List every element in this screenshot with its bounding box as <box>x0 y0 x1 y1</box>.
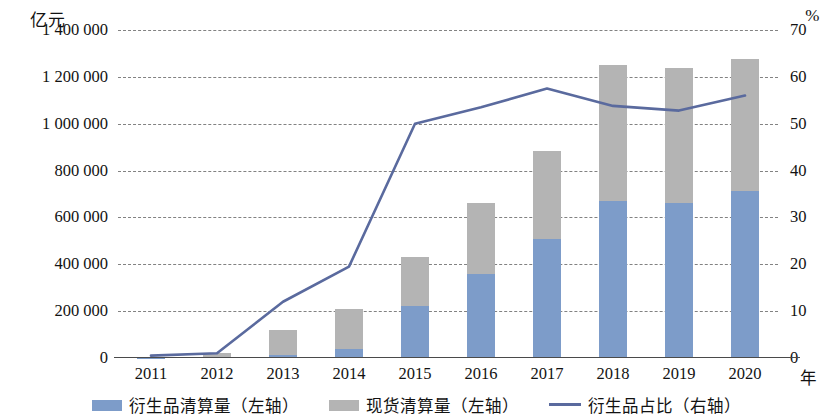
right-axis-tick: 20 <box>790 256 830 273</box>
legend-color-swatch <box>92 400 122 411</box>
legend-label: 现货清算量（左轴） <box>366 393 519 417</box>
left-axis-tick: 800 000 <box>4 163 108 180</box>
x-axis-tick: 2011 <box>118 366 184 383</box>
x-axis-tick: 2016 <box>448 366 514 383</box>
x-axis-tick: 2013 <box>250 366 316 383</box>
right-axis-tick: 60 <box>790 69 830 86</box>
chart-root: 亿元 % 0200 000400 000600 000800 0001 000 … <box>0 0 832 419</box>
plot-inner <box>118 30 778 358</box>
x-axis-tick: 2018 <box>580 366 646 383</box>
left-axis-tick: 600 000 <box>4 209 108 226</box>
legend-item[interactable]: 现货清算量（左轴） <box>329 393 519 417</box>
left-axis-tick: 1 200 000 <box>4 69 108 86</box>
legend-label: 衍生品占比（右轴） <box>588 393 741 417</box>
right-axis-tick: 70 <box>790 22 830 39</box>
x-axis-tick: 2012 <box>184 366 250 383</box>
right-axis-tick: 30 <box>790 209 830 226</box>
legend-label: 衍生品清算量（左轴） <box>129 393 299 417</box>
plot-area <box>118 30 778 358</box>
legend-item[interactable]: 衍生品清算量（左轴） <box>92 393 299 417</box>
legend-item[interactable]: 衍生品占比（右轴） <box>549 393 741 417</box>
left-axis-tick: 200 000 <box>4 303 108 320</box>
left-axis-tick: 1 400 000 <box>4 22 108 39</box>
left-axis-tick: 1 000 000 <box>4 116 108 133</box>
x-axis-unit-label: 年 <box>800 365 817 389</box>
legend-color-swatch <box>329 400 359 411</box>
left-axis-tick: 0 <box>4 350 108 367</box>
right-axis-tick: 10 <box>790 303 830 320</box>
x-axis-tick: 2020 <box>712 366 778 383</box>
derivative-share-line <box>151 89 745 356</box>
right-axis-tick: 40 <box>790 163 830 180</box>
line-series-svg <box>118 30 778 358</box>
x-axis-tick: 2015 <box>382 366 448 383</box>
x-axis-tick: 2014 <box>316 366 382 383</box>
legend-line-swatch <box>549 403 581 406</box>
left-axis-tick: 400 000 <box>4 256 108 273</box>
x-axis-tick: 2019 <box>646 366 712 383</box>
x-axis-baseline <box>114 357 800 358</box>
x-axis-tick: 2017 <box>514 366 580 383</box>
chart-legend: 衍生品清算量（左轴）现货清算量（左轴）衍生品占比（右轴） <box>0 393 832 417</box>
right-axis-tick: 50 <box>790 116 830 133</box>
